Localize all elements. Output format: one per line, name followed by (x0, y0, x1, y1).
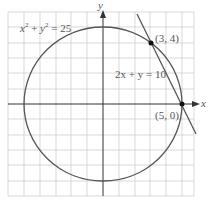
circle-eq-plus: + (28, 22, 40, 34)
line-equation: 2x + y = 10 (115, 68, 166, 80)
diagram-canvas: y x x2 + y2 = 25 2x + y = 10 (3, 4) (5, … (0, 0, 208, 206)
point-3-4 (149, 41, 154, 46)
point-label-3-4: (3, 4) (155, 32, 179, 45)
x-axis-label: x (200, 97, 206, 109)
y-axis-label: y (97, 0, 103, 11)
circle-equation: x2 + y2 = 25 (19, 21, 72, 34)
x-axis-arrow-icon (192, 101, 200, 107)
y-axis-arrow-icon (100, 10, 106, 18)
circle-eq-rhs: = 25 (49, 22, 72, 34)
point-5-0 (180, 102, 185, 107)
point-label-5-0: (5, 0) (155, 109, 179, 122)
